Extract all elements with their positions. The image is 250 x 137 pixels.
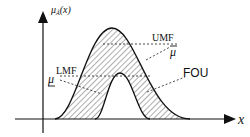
fou-label: FOU [183, 66, 208, 80]
lmf-label: LMF [56, 65, 77, 76]
umf-label: UMF [152, 32, 174, 43]
x-axis [15, 114, 236, 124]
y-axis-label: μÃ(x) [50, 4, 71, 16]
y-axis-arrow-icon [38, 11, 48, 23]
y-axis [38, 11, 48, 133]
it2-fuzzy-set-diagram: μÃ(x) x UMF μ LMF μ FOU [0, 0, 250, 137]
x-axis-label: x [237, 112, 245, 127]
umf-symbol: μ [169, 45, 176, 59]
lmf-symbol: μ [47, 72, 54, 86]
x-axis-arrow-icon [224, 114, 236, 124]
